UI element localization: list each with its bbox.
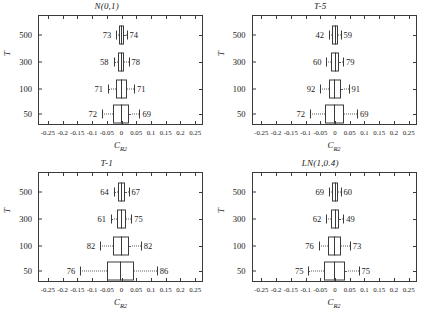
x-tick-label: -0.2 xyxy=(271,129,282,136)
x-tick-label: 0.25 xyxy=(189,286,201,293)
x-tick-mark-top xyxy=(122,16,123,19)
x-tick-label: 0 xyxy=(120,286,123,293)
x-tick-label: -0.25 xyxy=(254,286,268,293)
median-line xyxy=(335,26,336,45)
y-tick-mark xyxy=(39,245,42,246)
y-tick-label: 50 xyxy=(212,266,249,276)
x-axis-label: CR2 xyxy=(252,140,417,152)
y-tick-mark xyxy=(39,270,42,271)
y-tick-mark-right xyxy=(413,35,416,36)
x-tick-mark xyxy=(276,121,277,124)
y-tick-mark xyxy=(39,62,42,63)
x-tick-label: 0.05 xyxy=(344,129,356,136)
right-count-label: 71 xyxy=(137,84,146,94)
x-tick-label: -0.05 xyxy=(100,286,114,293)
right-count-label: 82 xyxy=(144,241,153,251)
left-count-label: 76 xyxy=(67,266,76,276)
x-tick-label: -0.25 xyxy=(41,286,55,293)
whisker-cap-high xyxy=(139,110,140,119)
whisker-cap-low xyxy=(108,85,109,94)
x-tick-mark-top xyxy=(136,173,137,176)
whisker-high xyxy=(344,114,357,115)
y-tick-mark xyxy=(253,114,256,115)
panel-title: T-5 xyxy=(214,1,427,11)
median-line xyxy=(335,182,336,201)
x-tick-label: 0 xyxy=(333,129,336,136)
x-axis-label: CR2 xyxy=(38,140,203,152)
right-count-label: 49 xyxy=(346,214,355,224)
panel-3: T-1TCR2-0.25-0.2-0.15-0.1-0.0500.050.10.… xyxy=(0,157,214,313)
left-count-label: 60 xyxy=(313,57,322,67)
x-tick-mark xyxy=(261,278,262,281)
right-count-label: 75 xyxy=(362,266,371,276)
right-count-label: 86 xyxy=(160,266,169,276)
x-tick-mark-top xyxy=(107,173,108,176)
x-tick-label: -0.05 xyxy=(313,129,327,136)
whisker-cap-high xyxy=(127,31,128,40)
median-line xyxy=(121,53,122,72)
y-tick-mark xyxy=(39,218,42,219)
x-tick-mark-top xyxy=(379,16,380,19)
x-tick-mark xyxy=(409,278,410,281)
y-tick-label: 500 xyxy=(212,187,249,197)
x-axis-label: CR2 xyxy=(38,297,203,309)
whisker-cap-low xyxy=(114,58,115,67)
left-count-label: 58 xyxy=(100,57,109,67)
x-tick-label: -0.1 xyxy=(300,286,311,293)
median-line xyxy=(334,236,335,255)
x-tick-label: 0.15 xyxy=(373,129,385,136)
plot-area: -0.25-0.2-0.15-0.1-0.0500.050.10.150.20.… xyxy=(38,15,203,125)
x-tick-label: 0.1 xyxy=(147,129,156,136)
x-tick-mark xyxy=(379,121,380,124)
whisker-cap-low xyxy=(116,31,117,40)
x-tick-mark-top xyxy=(364,16,365,19)
x-tick-mark-top xyxy=(320,173,321,176)
right-count-label: 79 xyxy=(346,57,355,67)
left-count-label: 73 xyxy=(103,30,112,40)
y-tick-label: 100 xyxy=(0,241,35,251)
x-tick-mark-top xyxy=(379,173,380,176)
x-tick-mark xyxy=(320,278,321,281)
x-tick-mark-top xyxy=(261,173,262,176)
y-tick-mark-right xyxy=(413,219,416,220)
plot-area: -0.25-0.2-0.15-0.1-0.0500.050.10.150.20.… xyxy=(38,172,203,282)
whisker-cap-high xyxy=(129,187,130,196)
y-tick-mark xyxy=(253,35,256,36)
x-tick-label: -0.25 xyxy=(254,129,268,136)
x-tick-mark xyxy=(306,121,307,124)
whisker-cap-high xyxy=(350,241,351,250)
left-count-label: 62 xyxy=(313,214,322,224)
whisker-low xyxy=(310,114,325,115)
whisker-cap-low xyxy=(319,241,320,250)
median-line xyxy=(335,209,336,228)
x-tick-mark-top xyxy=(195,16,196,19)
whisker-cap-low xyxy=(80,266,81,275)
right-count-label: 60 xyxy=(344,187,353,197)
x-tick-mark xyxy=(151,278,152,281)
x-tick-label: -0.2 xyxy=(271,286,282,293)
x-tick-mark xyxy=(92,278,93,281)
x-tick-mark-top xyxy=(320,16,321,19)
median-line xyxy=(121,209,122,228)
x-tick-mark xyxy=(180,121,181,124)
y-tick-mark xyxy=(39,35,42,36)
panel-title: LN(1,0.4) xyxy=(214,158,427,168)
median-line xyxy=(121,26,122,45)
x-tick-mark xyxy=(291,121,292,124)
left-count-label: 71 xyxy=(94,84,103,94)
left-count-label: 75 xyxy=(295,266,304,276)
x-tick-mark xyxy=(48,278,49,281)
whisker-low xyxy=(100,245,113,246)
y-tick-mark xyxy=(253,245,256,246)
x-tick-label: -0.15 xyxy=(284,129,298,136)
left-count-label: 61 xyxy=(97,214,106,224)
x-tick-mark-top xyxy=(77,173,78,176)
panel-title: N(0,1) xyxy=(0,1,214,11)
x-tick-mark xyxy=(364,121,365,124)
x-tick-mark-top xyxy=(151,16,152,19)
y-tick-label: 500 xyxy=(0,187,35,197)
x-tick-label: 0 xyxy=(333,286,336,293)
plot-area: -0.25-0.2-0.15-0.1-0.0500.050.10.150.20.… xyxy=(252,15,417,125)
right-count-label: 78 xyxy=(132,57,141,67)
whisker-cap-low xyxy=(114,187,115,196)
